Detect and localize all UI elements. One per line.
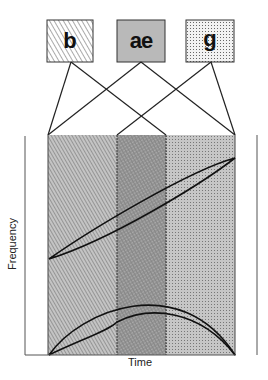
y-axis-label: Frequency (6, 209, 18, 279)
phoneme-label-ae: ae (117, 28, 165, 54)
coarticulation-diagram (0, 0, 268, 380)
phoneme-label-g: g (186, 26, 234, 52)
connector-lines (48, 62, 235, 135)
phoneme-label-b: b (47, 28, 93, 54)
x-axis-label: Time (110, 356, 170, 368)
